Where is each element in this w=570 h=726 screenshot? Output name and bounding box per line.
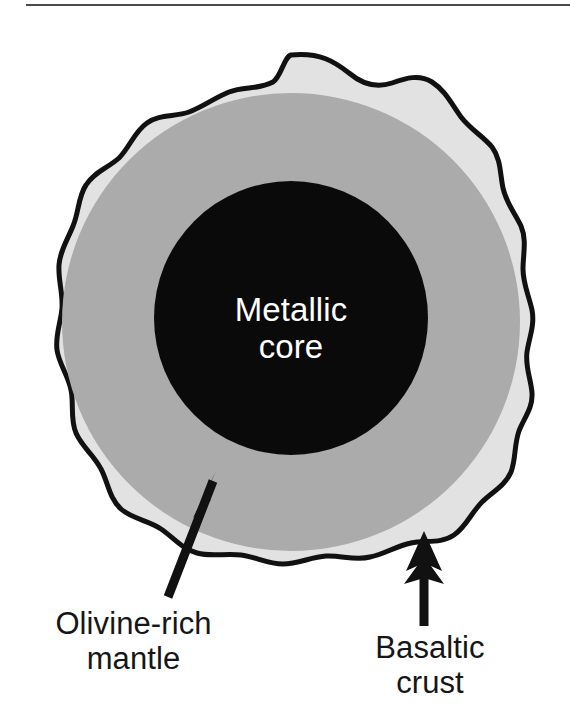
- crust-label: Basaltic crust: [330, 631, 530, 700]
- mantle-label: Olivine-rich mantle: [6, 607, 261, 676]
- figure-root: Metallic core Olivine-rich mantle Basalt…: [0, 0, 570, 726]
- core-label: Metallic core: [166, 292, 416, 366]
